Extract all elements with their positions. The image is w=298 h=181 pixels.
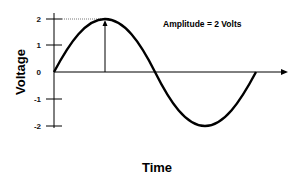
y-tick-label-minus-1: -1 xyxy=(34,95,42,104)
sine-wave-diagram: 2 1 0 -1 -2 Amplitude = 2 Volts Voltage … xyxy=(0,0,298,181)
y-tick-label-minus-2: -2 xyxy=(34,122,42,131)
amplitude-annotation: Amplitude = 2 Volts xyxy=(163,19,242,29)
x-axis-title: Time xyxy=(142,160,172,175)
y-tick-label-2: 2 xyxy=(37,15,42,24)
amplitude-arrow-head-icon xyxy=(103,20,108,26)
y-tick-label-0: 0 xyxy=(37,68,42,77)
y-axis-title: Voltage xyxy=(13,49,28,95)
x-axis-arrow-icon xyxy=(281,69,288,75)
y-tick-label-1: 1 xyxy=(37,41,42,50)
